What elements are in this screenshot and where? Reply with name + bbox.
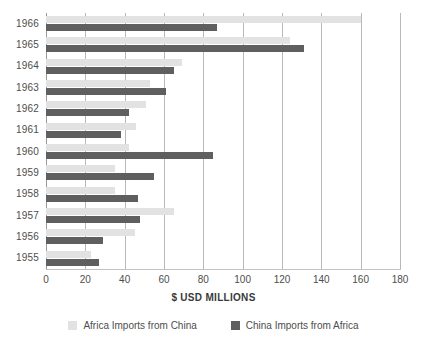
bar[interactable] (46, 152, 213, 159)
x-tick-label: 0 (43, 274, 49, 285)
y-tick-label: 1960 (16, 147, 39, 157)
legend-item-china-imports-from-africa[interactable]: China Imports from Africa (231, 320, 359, 331)
bar[interactable] (46, 123, 136, 130)
bar-group (46, 34, 400, 55)
y-tick-label: 1959 (16, 168, 39, 178)
bar[interactable] (46, 80, 150, 87)
bar[interactable] (46, 16, 361, 23)
x-axis-tick-labels: 020406080100120140160180 (0, 274, 427, 288)
y-axis-tick-labels: 1966196519641963196219611960195919581957… (0, 13, 42, 269)
bar[interactable] (46, 37, 290, 44)
y-tick-label: 1963 (16, 83, 39, 93)
y-tick-label: 1965 (16, 40, 39, 50)
bar[interactable] (46, 165, 115, 172)
x-tick-label: 60 (158, 274, 169, 285)
bar-group (46, 248, 400, 269)
bar-group (46, 184, 400, 205)
x-tick-label: 140 (313, 274, 330, 285)
bar[interactable] (46, 45, 304, 52)
bar[interactable] (46, 237, 103, 244)
x-tick-label: 120 (274, 274, 291, 285)
bar-group (46, 226, 400, 247)
bar[interactable] (46, 259, 99, 266)
legend-swatch-icon (231, 321, 240, 330)
bar[interactable] (46, 144, 129, 151)
bar[interactable] (46, 59, 182, 66)
x-axis-line (46, 269, 401, 270)
bar[interactable] (46, 229, 135, 236)
x-tick-label: 20 (80, 274, 91, 285)
bar[interactable] (46, 195, 138, 202)
bar-group (46, 13, 400, 34)
bar-group (46, 205, 400, 226)
gridline-180 (400, 13, 401, 269)
y-tick-label: 1955 (16, 253, 39, 263)
bar-group (46, 162, 400, 183)
y-tick-label: 1962 (16, 104, 39, 114)
y-tick-label: 1957 (16, 211, 39, 221)
plot-wrapper: 1966196519641963196219611960195919581957… (0, 0, 427, 300)
x-tick-label: 80 (198, 274, 209, 285)
chart-legend: Africa Imports from China China Imports … (0, 320, 427, 331)
legend-item-label: Africa Imports from China (83, 320, 196, 331)
bar-chart: 1966196519641963196219611960195919581957… (0, 0, 427, 348)
legend-swatch-icon (68, 321, 77, 330)
bar[interactable] (46, 67, 174, 74)
y-tick-label: 1966 (16, 19, 39, 29)
y-tick-label: 1956 (16, 232, 39, 242)
bar-group (46, 98, 400, 119)
bar[interactable] (46, 173, 154, 180)
bar-group (46, 120, 400, 141)
bar[interactable] (46, 208, 174, 215)
bar[interactable] (46, 109, 129, 116)
bar[interactable] (46, 131, 121, 138)
bar[interactable] (46, 251, 91, 258)
bar[interactable] (46, 187, 115, 194)
x-tick-label: 100 (234, 274, 251, 285)
bar-group (46, 77, 400, 98)
x-axis-title: $ USD MILLIONS (0, 292, 427, 303)
bars-layer (46, 13, 400, 269)
bar-group (46, 56, 400, 77)
y-tick-label: 1958 (16, 189, 39, 199)
legend-item-label: China Imports from Africa (246, 320, 359, 331)
x-tick-label: 180 (392, 274, 409, 285)
bar[interactable] (46, 24, 217, 31)
y-tick-label: 1964 (16, 61, 39, 71)
bar[interactable] (46, 88, 166, 95)
x-tick-label: 40 (119, 274, 130, 285)
y-tick-label: 1961 (16, 125, 39, 135)
x-tick-label: 160 (352, 274, 369, 285)
legend-item-africa-imports-from-china[interactable]: Africa Imports from China (68, 320, 196, 331)
plot-area (46, 13, 400, 269)
bar[interactable] (46, 216, 140, 223)
bar[interactable] (46, 101, 146, 108)
bar-group (46, 141, 400, 162)
